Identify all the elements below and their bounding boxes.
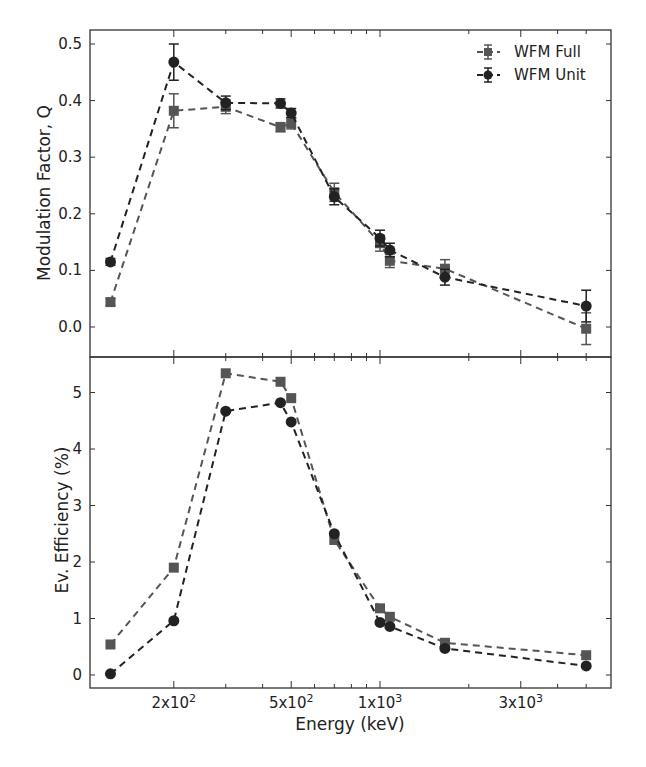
- top-y-axis-label: Modulation Factor, Q: [34, 105, 54, 281]
- data-point-circle: [275, 98, 286, 109]
- data-point-circle: [286, 416, 297, 427]
- data-point-circle: [375, 617, 386, 628]
- data-point-circle: [168, 615, 179, 626]
- data-point-circle: [439, 272, 450, 283]
- y-tick-label: 0.4: [58, 92, 82, 110]
- data-point-circle: [439, 643, 450, 654]
- data-point-circle: [105, 256, 116, 267]
- data-point-circle: [384, 621, 395, 632]
- circle-marker-icon: [484, 71, 493, 80]
- data-point-square: [105, 639, 115, 649]
- data-point-circle: [581, 660, 592, 671]
- data-point-circle: [220, 97, 231, 108]
- legend-label-wfm-full: WFM Full: [514, 43, 581, 61]
- data-point-circle: [220, 406, 231, 417]
- x-axis-label: Energy (keV): [295, 714, 405, 734]
- y-tick-label: 1: [72, 610, 82, 628]
- data-point-square: [169, 563, 179, 573]
- data-point-circle: [105, 668, 116, 679]
- bottom-y-axis-label: Ev. Efficiency (%): [52, 447, 72, 594]
- y-tick-label: 0.5: [58, 35, 82, 53]
- square-marker-icon: [484, 48, 492, 56]
- y-tick-label: 0.1: [58, 261, 82, 279]
- y-tick-label: 0.3: [58, 148, 82, 166]
- data-point-circle: [286, 108, 297, 119]
- data-point-square: [581, 324, 591, 334]
- data-point-square: [385, 612, 395, 622]
- data-point-square: [286, 393, 296, 403]
- y-tick-label: 0.0: [58, 318, 82, 336]
- data-point-circle: [375, 233, 386, 244]
- data-point-circle: [329, 528, 340, 539]
- data-point-square: [276, 122, 286, 132]
- y-tick-label: 3: [72, 497, 82, 515]
- data-point-square: [105, 297, 115, 307]
- data-point-square: [581, 650, 591, 660]
- y-tick-label: 5: [72, 384, 82, 402]
- data-point-circle: [384, 245, 395, 256]
- data-point-square: [169, 106, 179, 116]
- data-point-square: [221, 368, 231, 378]
- data-point-square: [375, 603, 385, 613]
- data-point-circle: [168, 57, 179, 68]
- data-point-circle: [581, 301, 592, 312]
- figure: 0.00.10.20.30.40.5 Modulation Factor, Q …: [0, 0, 646, 767]
- y-tick-label: 4: [72, 440, 82, 458]
- legend-label-wfm-unit: WFM Unit: [514, 66, 586, 84]
- y-tick-label: 2: [72, 553, 82, 571]
- y-tick-label: 0.2: [58, 205, 82, 223]
- data-point-circle: [329, 191, 340, 202]
- y-tick-label: 0: [72, 666, 82, 684]
- data-point-circle: [275, 397, 286, 408]
- data-point-square: [276, 377, 286, 387]
